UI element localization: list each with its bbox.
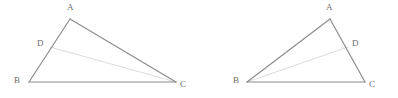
right-triangle-label-b: B bbox=[233, 76, 239, 85]
cevian-dc bbox=[50, 47, 176, 82]
triangle-abc-with-cevian-dc bbox=[29, 19, 176, 82]
cevian-bd bbox=[247, 47, 348, 82]
right-triangle-label-a: A bbox=[326, 3, 333, 12]
left-triangle-label-d: D bbox=[37, 39, 44, 48]
left-triangle-label-b: B bbox=[14, 76, 20, 85]
triangles-svg bbox=[0, 0, 398, 98]
right-triangle-label-d: D bbox=[352, 39, 359, 48]
left-triangle-label-a: A bbox=[67, 3, 74, 12]
right-triangle-label-c: C bbox=[369, 80, 375, 89]
triangle-abc-with-cevian-bd bbox=[247, 19, 365, 82]
side-ac bbox=[70, 19, 176, 82]
left-triangle-label-c: C bbox=[180, 80, 186, 89]
side-ac bbox=[330, 19, 365, 82]
side-ab bbox=[247, 19, 330, 82]
geometry-figure-canvas: ABCDABCD bbox=[0, 0, 398, 98]
